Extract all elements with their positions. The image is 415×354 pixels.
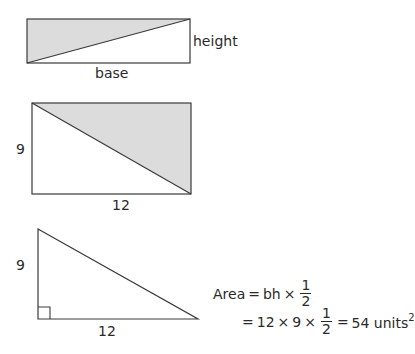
- figure2-base-label: 12: [112, 198, 130, 212]
- figure2-height-label: 9: [16, 142, 25, 156]
- formula-height-value: 9: [292, 314, 301, 330]
- figure3-height-label: 9: [16, 258, 25, 272]
- formula-result-exponent: 2: [408, 312, 414, 323]
- figure1-rectangle: [27, 19, 190, 63]
- figure3-right-triangle: [38, 229, 198, 319]
- figure3-outline: [38, 229, 198, 319]
- formula-half-fraction: 1 2: [321, 306, 332, 337]
- right-angle-marker-icon: [38, 307, 50, 319]
- formula-times: ×: [284, 286, 296, 302]
- area-formula-line2: = 12 × 9 × 1 2 = 54 units2: [242, 306, 415, 337]
- formula-half-fraction: 1 2: [300, 278, 311, 309]
- formula-result: 54 units2: [352, 312, 415, 331]
- formula-equals: =: [242, 314, 254, 330]
- fraction-denominator: 2: [322, 322, 331, 337]
- formula-bh-term: bh: [263, 286, 281, 302]
- area-formula-line1: Area = bh × 1 2: [213, 278, 313, 309]
- fraction-numerator: 1: [300, 278, 311, 294]
- formula-equals: =: [248, 286, 260, 302]
- formula-base-value: 12: [257, 314, 275, 330]
- figure1-base-label: base: [95, 66, 128, 80]
- formula-area-lhs: Area: [213, 286, 245, 302]
- formula-equals: =: [337, 314, 349, 330]
- formula-times: ×: [304, 314, 316, 330]
- figure1-height-label: height: [193, 34, 238, 48]
- figure2-rectangle: [32, 103, 191, 194]
- figure3-base-label: 12: [98, 324, 116, 338]
- formula-times: ×: [278, 314, 290, 330]
- fraction-numerator: 1: [321, 306, 332, 322]
- formula-result-value: 54 units: [352, 315, 409, 331]
